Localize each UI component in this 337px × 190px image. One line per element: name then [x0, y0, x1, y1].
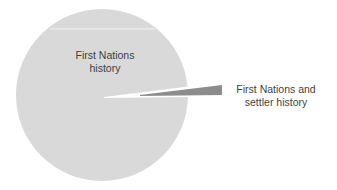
label-main-line2: history: [62, 62, 148, 75]
label-small-line1: First Nations and: [228, 83, 324, 96]
label-first-nations-history: First Nations history: [62, 49, 148, 74]
label-small-line2: settler history: [228, 96, 324, 109]
label-main-line1: First Nations: [62, 49, 148, 62]
label-first-nations-and-settler-history: First Nations and settler history: [228, 83, 324, 108]
